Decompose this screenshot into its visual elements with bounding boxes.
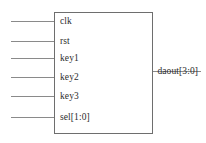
input-port-label-sel: sel[1:0] bbox=[60, 112, 90, 122]
input-port-label-key2: key2 bbox=[60, 72, 79, 82]
input-port-label-clk: clk bbox=[60, 16, 72, 26]
output-port-label-daout: daout[3:0] bbox=[157, 66, 198, 76]
input-port-label-key1: key1 bbox=[60, 53, 79, 63]
input-port-label-rst: rst bbox=[60, 36, 70, 46]
input-port-label-key3: key3 bbox=[60, 91, 79, 101]
block-diagram: clk rst key1 key2 key3 sel[1:0] daout[3:… bbox=[0, 0, 206, 143]
